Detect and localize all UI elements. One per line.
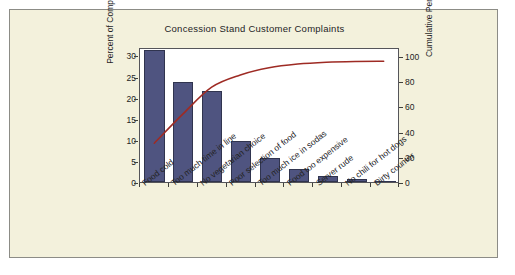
y-axis-right-tickmarks [399,48,404,183]
x-axis-tickmark [255,183,256,187]
y-axis-right-tickmark [399,183,403,184]
x-axis-tickmark [139,183,140,187]
y-axis-left-tick: 10 [108,136,136,146]
cumulative-line-series [140,49,398,182]
y-axis-right-tick: 40 [405,128,427,138]
y-axis-left-tick: 15 [108,115,136,125]
x-axis-tickmark [283,183,284,187]
y-axis-right-tickmark [399,57,403,58]
plot-area [139,48,399,183]
y-axis-right-tickmark [399,158,403,159]
x-axis-tickmark [398,183,399,187]
y-axis-right-tick: 20 [405,153,427,163]
y-axis-right-tickmark [399,133,403,134]
x-axis-tickmark [370,183,371,187]
y-axis-right-tickmark [399,107,403,108]
y-axis-left-tick: 0 [108,178,136,188]
x-axis-tickmarks [139,183,399,188]
cumulative-curve-path [154,61,383,143]
x-axis-tickmark [197,183,198,187]
x-axis-tickmark [341,183,342,187]
y-axis-left-tickmark [134,162,138,163]
y-axis-right-title: Cumulative Percent [424,0,438,80]
y-axis-left-tick: 30 [108,51,136,61]
y-axis-right-tick: 60 [405,102,427,112]
y-axis-right-tickmark [399,82,403,83]
x-axis-tickmark [226,183,227,187]
y-axis-left-tickmark [134,141,138,142]
y-axis-left-tickmark [134,56,138,57]
chart-panel: Concession Stand Customer Complaints Per… [9,9,498,258]
y-axis-right-tick: 0 [405,178,427,188]
x-axis-tickmark [168,183,169,187]
y-axis-left-tick: 20 [108,94,136,104]
y-axis-left-tickmark [134,99,138,100]
x-axis-tickmark [312,183,313,187]
y-axis-left-tickmark [134,78,138,79]
plot-inner [140,49,398,182]
y-axis-left-tickmark [134,183,138,184]
figure-container: Concession Stand Customer Complaints Per… [0,0,515,275]
y-axis-left-ticklabels: 051015202530 [105,48,136,183]
y-axis-left-tickmark [134,120,138,121]
y-axis-left-tick: 5 [108,157,136,167]
y-axis-left-tick: 25 [108,73,136,83]
